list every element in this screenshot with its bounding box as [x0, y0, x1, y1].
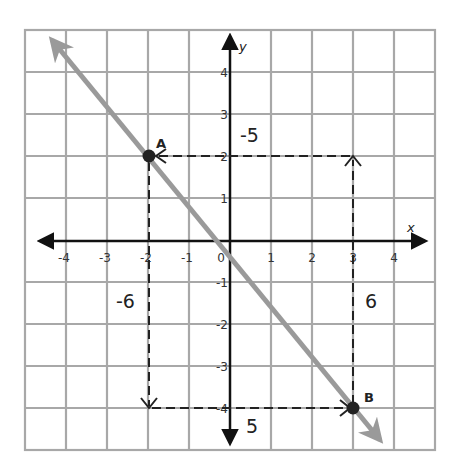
point-a-label: A	[156, 136, 166, 151]
x-axis-label: x	[406, 220, 415, 235]
svg-text:1: 1	[220, 192, 228, 206]
svg-text:4: 4	[390, 251, 398, 265]
annotation-rise-right: 6	[365, 290, 377, 312]
annotation-run-top: -5	[240, 124, 259, 146]
svg-text:-1: -1	[181, 251, 193, 265]
point-b-label: B	[364, 390, 374, 405]
svg-text:2: 2	[308, 251, 316, 265]
annotation-run-bottom: 5	[246, 415, 258, 437]
y-axis-label: y	[238, 39, 247, 54]
svg-text:-3: -3	[216, 360, 228, 374]
point-b	[347, 402, 360, 415]
svg-text:-3: -3	[99, 251, 111, 265]
svg-text:-2: -2	[140, 251, 152, 265]
svg-text:1: 1	[267, 251, 275, 265]
svg-text:-1: -1	[216, 276, 228, 290]
point-a	[143, 150, 156, 163]
svg-text:-4: -4	[58, 251, 70, 265]
annotation-rise-left: -6	[116, 290, 135, 312]
svg-text:-2: -2	[216, 318, 228, 332]
svg-text:3: 3	[220, 108, 228, 122]
coordinate-plane-diagram: x y -4 -3 -2 -1 0 1 2 3 4 4 3 2 1 -1 -2 …	[0, 0, 455, 472]
svg-text:4: 4	[220, 66, 228, 80]
